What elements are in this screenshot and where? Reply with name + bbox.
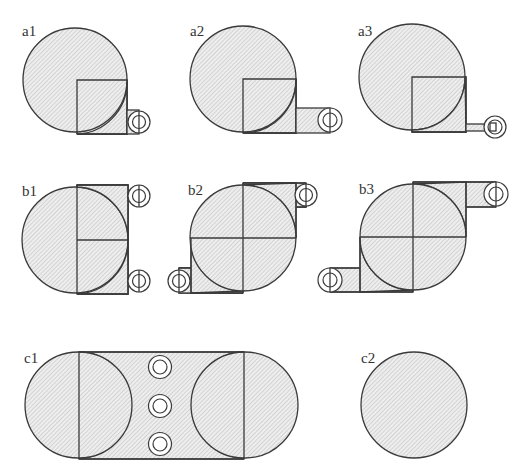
- panel-label-a2: a2: [190, 23, 204, 39]
- roller-icon: [318, 108, 342, 132]
- roller-icon: [484, 116, 506, 138]
- diagram-canvas: a1 a2 a3: [0, 0, 530, 474]
- roller-icon: [128, 111, 150, 133]
- roller-icon: [149, 433, 172, 456]
- roller-icon: [168, 270, 190, 292]
- panel-b2: b2: [168, 182, 317, 293]
- panel-c1: c1: [24, 350, 298, 459]
- panel-label-a3: a3: [358, 23, 372, 39]
- panel-label-b3: b3: [359, 181, 374, 197]
- roller-icon: [484, 182, 508, 206]
- panel-label-a1: a1: [22, 23, 36, 39]
- panel-a1: a1: [22, 23, 150, 134]
- panel-c2: c2: [361, 350, 467, 458]
- main-circle: [361, 352, 467, 458]
- roller-icon: [128, 185, 150, 207]
- panel-a3: a3: [358, 23, 506, 138]
- roller-icon: [128, 270, 150, 292]
- panel-b1: b1: [22, 183, 150, 294]
- panel-label-b1: b1: [22, 183, 37, 199]
- panel-b3: b3: [318, 181, 508, 292]
- panel-label-b2: b2: [188, 182, 203, 198]
- panel-label-c2: c2: [361, 350, 375, 366]
- panel-a2: a2: [190, 23, 342, 133]
- roller-icon: [318, 268, 342, 292]
- panel-label-c1: c1: [24, 350, 38, 366]
- roller-icon: [149, 356, 172, 379]
- roller-icon: [149, 395, 172, 418]
- roller-icon: [295, 184, 317, 206]
